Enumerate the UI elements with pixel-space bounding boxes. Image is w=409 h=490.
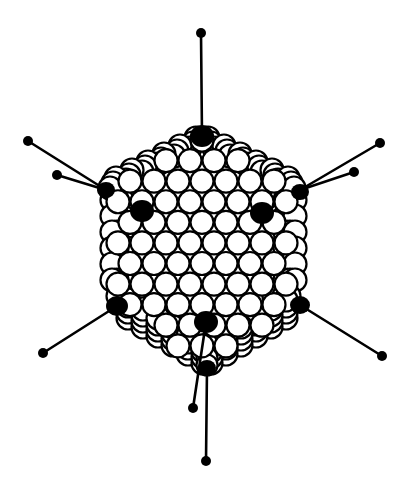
fiber-shaft <box>201 33 202 136</box>
hexon-capsomer <box>167 252 190 275</box>
penton-front-left <box>130 200 154 222</box>
fiber-knob <box>52 170 62 180</box>
hexon-capsomer <box>179 231 202 254</box>
hexon-capsomer <box>203 149 226 172</box>
fiber-bottom-long <box>201 368 211 466</box>
penton-right <box>291 184 309 200</box>
hexon-capsomer <box>107 273 130 296</box>
hexon-capsomer <box>239 293 262 316</box>
fiber-knob <box>196 28 206 38</box>
fiber-knob <box>377 351 387 361</box>
fiber-shaft <box>300 143 380 190</box>
hexon-capsomer <box>191 252 214 275</box>
hexon-capsomer <box>239 170 262 193</box>
hexon-capsomer <box>167 211 190 234</box>
fiber-knob <box>201 456 211 466</box>
hexon-capsomer <box>191 211 214 234</box>
hexon-capsomer <box>155 273 178 296</box>
hexon-capsomer <box>263 170 286 193</box>
hexon-capsomer <box>143 170 166 193</box>
fiber-shaft <box>43 306 117 353</box>
hexon-capsomer <box>227 314 250 337</box>
penton-top <box>190 125 214 147</box>
hexon-capsomer <box>155 231 178 254</box>
fiber-right-inner <box>300 167 359 190</box>
hexon-capsomer <box>119 252 142 275</box>
hexon-capsomer <box>227 273 250 296</box>
hexon-capsomer <box>215 252 238 275</box>
fiber-top <box>196 28 206 136</box>
hexon-capsomer <box>215 211 238 234</box>
hexon-capsomer <box>155 314 178 337</box>
hexon-capsomer <box>131 231 154 254</box>
hexon-capsomer <box>251 314 274 337</box>
fiber-shaft <box>300 305 382 356</box>
hexon-capsomer <box>179 149 202 172</box>
penton-front-right <box>250 202 274 224</box>
hexon-capsomer <box>215 170 238 193</box>
fiber-lower-right <box>300 305 387 361</box>
hexon-capsomer <box>227 149 250 172</box>
hexon-capsomer <box>167 334 190 357</box>
fiber-lower-left <box>38 306 117 358</box>
fiber-knob <box>349 167 359 177</box>
hexon-capsomer <box>263 293 286 316</box>
hexon-capsomer <box>239 252 262 275</box>
hexon-capsomer <box>215 334 238 357</box>
hexon-capsomer <box>179 190 202 213</box>
hexon-capsomer <box>275 273 298 296</box>
hexon-capsomer <box>119 170 142 193</box>
penton-lower-left <box>106 296 128 316</box>
hexon-capsomer <box>203 190 226 213</box>
hexon-capsomer <box>131 273 154 296</box>
hexon-capsomer <box>155 190 178 213</box>
hexon-capsomer <box>203 273 226 296</box>
hexon-capsomer <box>227 190 250 213</box>
hexon-capsomer <box>275 231 298 254</box>
hexon-capsomer <box>107 231 130 254</box>
hexon-capsomer <box>167 170 190 193</box>
fiber-knob <box>23 136 33 146</box>
hexon-capsomer <box>263 252 286 275</box>
fiber-knob <box>38 348 48 358</box>
hexon-capsomer <box>155 149 178 172</box>
hexon-capsomer <box>251 231 274 254</box>
hexon-capsomer <box>215 293 238 316</box>
fiber-shaft <box>28 141 106 190</box>
hexon-capsomer <box>143 252 166 275</box>
virus-diagram <box>0 0 409 490</box>
fiber-knob <box>188 403 198 413</box>
hexon-capsomer <box>143 293 166 316</box>
fiber-knob <box>375 138 385 148</box>
hexon-capsomer <box>179 273 202 296</box>
hexon-capsomer <box>191 170 214 193</box>
penton-left <box>97 182 115 198</box>
fiber-right-outer <box>300 138 385 190</box>
penton-lower-right <box>290 296 310 314</box>
hexon-capsomer <box>251 273 274 296</box>
virus-capsid-illustration <box>0 0 409 490</box>
hexon-capsomer <box>167 293 190 316</box>
fiber-shaft <box>206 368 207 461</box>
hexon-capsomer <box>227 231 250 254</box>
hexon-capsomer <box>203 231 226 254</box>
fiber-left-outer <box>23 136 106 190</box>
